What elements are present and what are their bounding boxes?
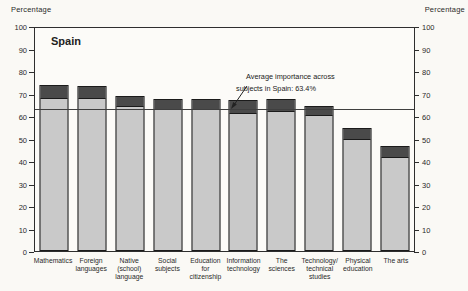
y-tick-label-right: 40 — [422, 158, 448, 167]
y-tick-mark-left — [29, 207, 34, 208]
y-tick-label-right: 50 — [422, 136, 448, 145]
x-category-label: The arts — [372, 257, 420, 265]
country-label: Spain — [51, 35, 81, 47]
y-tick-label-right: 80 — [422, 68, 448, 77]
y-tick-mark-right — [414, 230, 419, 231]
y-tick-label-right: 20 — [422, 203, 448, 212]
y-tick-label-left: 40 — [1, 158, 27, 167]
y-tick-label-left: 30 — [1, 181, 27, 190]
y-tick-label-right: 70 — [422, 91, 448, 100]
y-tick-mark-right — [414, 207, 419, 208]
y-tick-label-left: 0 — [1, 248, 27, 257]
y-tick-mark-left — [29, 95, 34, 96]
y-tick-mark-left — [29, 50, 34, 51]
y-tick-mark-left — [29, 117, 34, 118]
bar-cap-segment — [78, 87, 105, 99]
y-tick-mark-left — [29, 185, 34, 186]
average-annotation-line1: Average importance across — [246, 72, 335, 81]
y-tick-mark-left — [29, 140, 34, 141]
y-tick-mark-right — [414, 95, 419, 96]
y-tick-mark-right — [414, 117, 419, 118]
y-tick-mark-left — [29, 27, 34, 28]
y-tick-label-left: 90 — [1, 46, 27, 55]
bar-technology-technical-studies — [305, 106, 334, 251]
y-tick-label-right: 30 — [422, 181, 448, 190]
bar-the-sciences — [267, 99, 296, 251]
y-tick-mark-right — [414, 252, 419, 253]
y-tick-label-right: 0 — [422, 248, 448, 257]
annotation-arrow-icon — [220, 82, 256, 116]
y-tick-label-left: 70 — [1, 91, 27, 100]
bar-cap-segment — [116, 97, 143, 107]
bar-cap-segment — [268, 100, 295, 112]
bar-physical-education — [343, 128, 372, 251]
y-tick-label-left: 10 — [1, 226, 27, 235]
y-tick-mark-left — [29, 162, 34, 163]
y-tick-label-right: 60 — [422, 113, 448, 122]
y-tick-label-right: 100 — [422, 23, 448, 32]
y-tick-mark-right — [414, 50, 419, 51]
y-tick-mark-right — [414, 162, 419, 163]
y-tick-label-left: 80 — [1, 68, 27, 77]
bar-cap-segment — [382, 147, 409, 158]
y-tick-mark-left — [29, 72, 34, 73]
plot-area: Spain — [34, 27, 415, 252]
y-axis-title-left: Percentage — [11, 5, 51, 14]
bar-social-subjects — [153, 99, 182, 251]
y-tick-mark-right — [414, 140, 419, 141]
y-tick-label-left: 50 — [1, 136, 27, 145]
y-tick-label-right: 10 — [422, 226, 448, 235]
bar-education-for-citizenship — [191, 99, 220, 251]
bar-cap-segment — [344, 129, 371, 140]
y-tick-label-right: 90 — [422, 46, 448, 55]
y-tick-mark-right — [414, 27, 419, 28]
y-tick-mark-right — [414, 72, 419, 73]
y-tick-mark-left — [29, 230, 34, 231]
bar-native-school-language — [115, 96, 144, 251]
y-tick-label-left: 20 — [1, 203, 27, 212]
bar-thearts — [381, 146, 410, 251]
figure: Percentage Percentage Spain 001010202030… — [0, 0, 468, 291]
bar-cap-segment — [40, 86, 67, 99]
bar-foreign-languages — [77, 86, 106, 251]
y-tick-mark-left — [29, 252, 34, 253]
y-tick-label-left: 100 — [1, 23, 27, 32]
bar-information-technology — [229, 100, 258, 251]
y-tick-mark-right — [414, 185, 419, 186]
y-tick-label-left: 60 — [1, 113, 27, 122]
bar-mathematics — [39, 85, 68, 251]
y-axis-title-right: Percentage — [425, 5, 465, 14]
